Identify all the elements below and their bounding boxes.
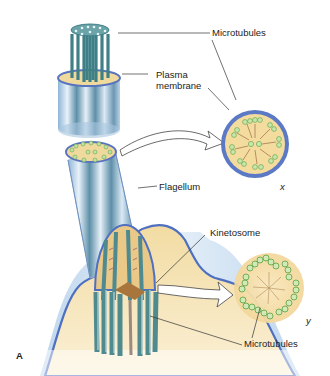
label-plasma-membrane-line2: membrane [156, 80, 201, 91]
label-flagellum: Flagellum [159, 181, 200, 192]
cross-section-y [234, 253, 304, 323]
panel-label: A [16, 350, 23, 361]
label-plasma-membrane-line1: Plasma [156, 69, 188, 80]
label-kinetosome: Kinetosome [210, 227, 260, 238]
flagellum-top-segment [58, 24, 120, 138]
label-microtubules-top: Microtubules [212, 27, 266, 38]
cross-section-x [221, 110, 289, 178]
flagellum-diagram: Microtubules Plasma membrane Flagellum K… [0, 0, 330, 376]
label-section-y: y [306, 315, 311, 326]
flagellum-slice [66, 141, 116, 162]
label-microtubules-bottom: Microtubules [244, 338, 298, 349]
arrow-to-x [120, 131, 224, 156]
label-section-x: x [280, 181, 285, 192]
